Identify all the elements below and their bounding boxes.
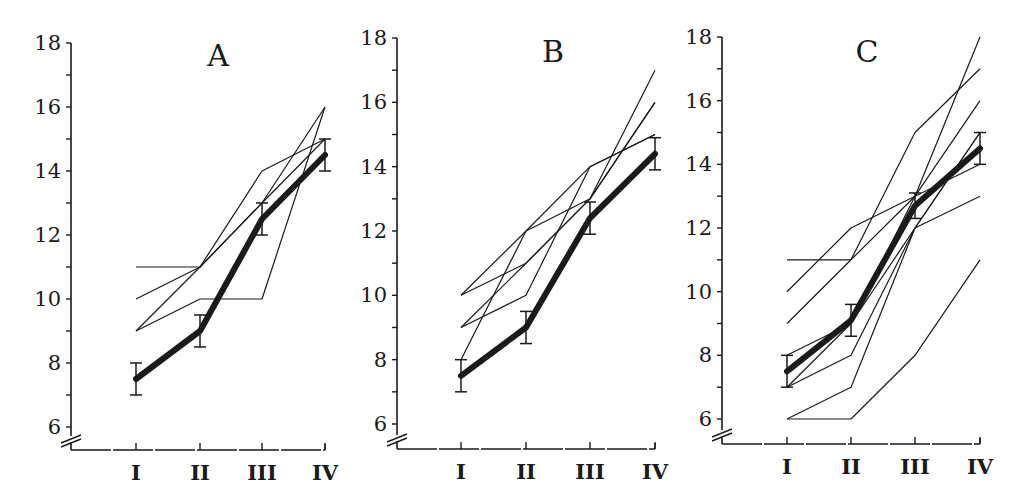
y-tick-label: 6	[699, 407, 712, 431]
plot-area	[712, 37, 986, 444]
x-tick-label: I	[456, 459, 466, 484]
plot-area	[387, 38, 661, 449]
individual-series-line	[787, 69, 980, 260]
individual-series-line	[787, 260, 980, 419]
x-axis-labels: I II III IV	[782, 454, 994, 479]
y-tick-label: 12	[685, 216, 712, 240]
x-tick-label: II	[841, 454, 861, 479]
panel-b: B 6 8 10 12 14 16 18 I II III IV	[360, 26, 668, 484]
x-axis-labels: I II III IV	[131, 460, 339, 485]
y-tick-label: 8	[48, 351, 61, 375]
x-tick-label: III	[247, 460, 276, 485]
panel-title: A	[206, 38, 229, 73]
x-tick-label: III	[575, 459, 604, 484]
y-axis-labels: 6 8 10 12 14 16 18	[685, 25, 712, 431]
x-tick-label: IV	[642, 459, 669, 484]
y-tick-label: 12	[34, 223, 61, 247]
y-tick-label: 14	[685, 152, 712, 176]
x-tick-label: II	[190, 460, 210, 485]
y-tick-label: 18	[34, 31, 61, 55]
y-axis-labels: 6 8 10 12 14 16 18	[34, 31, 61, 439]
x-axis-labels: I II III IV	[456, 459, 669, 484]
y-tick-label: 18	[360, 26, 387, 50]
axis-break-mark	[712, 429, 732, 437]
y-tick-label: 6	[48, 415, 61, 439]
y-tick-label: 10	[34, 287, 61, 311]
x-tick-label: IV	[967, 454, 994, 479]
panel-title: B	[542, 34, 564, 69]
individual-series-line	[787, 37, 980, 292]
y-tick-label: 8	[699, 343, 712, 367]
y-tick-label: 16	[34, 95, 61, 119]
y-tick-label: 8	[374, 348, 387, 372]
x-tick-label: I	[782, 454, 792, 479]
y-axis-labels: 6 8 10 12 14 16 18	[360, 26, 387, 436]
chart-canvas: A 6 8 10 12 14 16 18 I II III IV B 6	[0, 0, 1014, 494]
y-tick-label: 14	[360, 155, 387, 179]
figure: A 6 8 10 12 14 16 18 I II III IV B 6	[0, 0, 1014, 494]
panel-c: C 6 8 10 12 14 16 18 I II III IV	[685, 25, 993, 479]
x-tick-label: I	[131, 460, 141, 485]
y-tick-label: 16	[360, 90, 387, 114]
y-tick-label: 14	[34, 159, 61, 183]
individual-series-line	[136, 139, 325, 331]
x-tick-label: III	[900, 454, 929, 479]
y-tick-label: 6	[374, 412, 387, 436]
individual-series-line	[787, 133, 980, 356]
axis-break-mark	[387, 434, 407, 442]
individual-series-line	[136, 139, 325, 267]
mean-series-line	[461, 154, 655, 376]
plot-area	[61, 43, 331, 450]
y-tick-label: 12	[360, 219, 387, 243]
x-tick-label: II	[516, 459, 536, 484]
axis-break-mark	[61, 435, 81, 443]
y-tick-label: 18	[685, 25, 712, 49]
panel-a: A 6 8 10 12 14 16 18 I II III IV	[34, 31, 338, 485]
panel-title: C	[856, 34, 879, 69]
y-tick-label: 16	[685, 89, 712, 113]
y-tick-label: 10	[685, 280, 712, 304]
x-tick-label: IV	[312, 460, 339, 485]
y-tick-label: 10	[360, 283, 387, 307]
